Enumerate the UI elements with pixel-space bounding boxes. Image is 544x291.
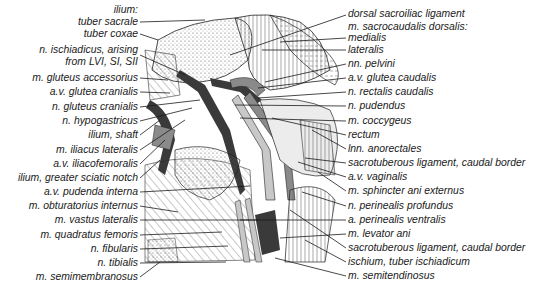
label-medialis: medialis: [348, 32, 386, 44]
label-m-obturatorius-internus: m. obturatorius internus: [29, 200, 138, 212]
label-ilium: ilium:: [114, 4, 138, 16]
label-av-glutea-cranialis: a.v. glutea cranialis: [50, 86, 138, 98]
label-n-hypogastricus: n. hypogastricus: [62, 115, 138, 127]
label-n-perinealis-profundus: n. perinealis profundus: [348, 200, 453, 212]
label-a-perinealis-ventralis: a. perinealis ventralis: [348, 214, 446, 226]
label-sacrotuberous-ligament-2: sacrotuberous ligament, caudal border: [348, 242, 525, 254]
label-m-semimembranosus: m. semimembranosus: [36, 271, 138, 283]
label-n-gluteus-cranialis: n. gluteus cranialis: [52, 101, 138, 113]
label-m-semitendinosus: m. semitendinosus: [348, 270, 435, 282]
label-n-ischiadicus-origin: from LVI, SI, SII: [65, 56, 138, 68]
label-n-fibularis: n. fibularis: [91, 243, 138, 255]
label-ischium-tuber-ischiadicum: ischium, tuber ischiadicum: [348, 256, 470, 268]
label-lateralis: lateralis: [348, 44, 384, 56]
label-m-levator-ani: m. levator ani: [348, 228, 410, 240]
label-sacrotuberous-ligament-1: sacrotuberous ligament, caudal border: [348, 157, 525, 169]
label-av-iliacofemoralis: a.v. iliacofemoralis: [53, 158, 138, 170]
label-av-glutea-caudalis: a.v. glutea caudalis: [348, 72, 436, 84]
label-n-ischiadicus: n. ischiadicus, arising: [39, 44, 138, 56]
label-tuber-sacrale: tuber sacrale: [78, 16, 138, 28]
label-n-tibialis: n. tibialis: [98, 257, 138, 269]
label-m-quadratus-femoris: m. quadratus femoris: [40, 229, 138, 241]
label-n-pudendus: n. pudendus: [348, 100, 405, 112]
label-m-gluteus-accessorius: m. gluteus accessorius: [32, 72, 138, 84]
label-av-pudenda-interna: a.v. pudenda interna: [44, 186, 138, 198]
label-n-rectalis-caudalis: n. rectalis caudalis: [348, 86, 433, 98]
label-nn-pelvini: nn. pelvini: [348, 58, 395, 70]
label-m-iliacus-lateralis: m. iliacus lateralis: [56, 144, 138, 156]
label-dorsal-sacroiliac-ligament: dorsal sacroiliac ligament: [348, 8, 465, 20]
label-m-vastus-lateralis: m. vastus lateralis: [55, 214, 138, 226]
label-ilium-greater-sciatic-notch: ilium, greater sciatic notch: [18, 172, 138, 184]
label-av-vaginalis: a.v. vaginalis: [348, 171, 407, 183]
label-tuber-coxae: tuber coxae: [84, 28, 138, 40]
label-m-sphincter-ani-externus: m. sphincter ani externus: [348, 185, 464, 197]
label-rectum: rectum: [348, 129, 380, 141]
anatomical-figure: ilium: tuber sacrale tuber coxae n. isch…: [0, 0, 544, 291]
label-ilium-shaft: ilium, shaft: [88, 129, 138, 141]
label-lnn-anorectales: lnn. anorectales: [348, 143, 421, 155]
label-m-coccygeus: m. coccygeus: [348, 115, 412, 127]
